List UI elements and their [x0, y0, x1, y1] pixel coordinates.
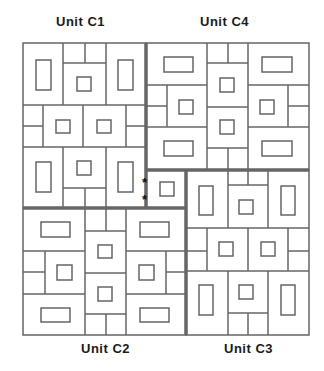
unit-c4-plan	[146, 43, 309, 170]
asterisk-marker-2: *	[142, 195, 147, 205]
center-square	[160, 182, 174, 196]
floor-plan	[0, 0, 324, 371]
unit-c3-plan	[186, 170, 309, 335]
unit-c1-plan	[23, 43, 146, 208]
unit-c2-plan	[23, 208, 186, 335]
asterisk-marker-1: *	[142, 178, 147, 188]
